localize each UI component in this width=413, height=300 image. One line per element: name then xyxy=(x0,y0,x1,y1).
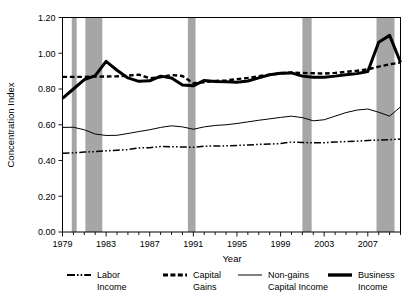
x-tick-label: 1983 xyxy=(96,239,116,249)
concentration-index-line-chart: 0.000.200.400.600.801.001.20 19791983198… xyxy=(0,0,413,300)
recession-band-1 xyxy=(72,18,77,233)
y-tick-label: 0.80 xyxy=(38,84,56,94)
legend-label-line2: Capital Income xyxy=(268,282,328,292)
legend-label-line2: Gains xyxy=(193,282,217,292)
legend-label-line1: Non-gains xyxy=(268,270,310,280)
x-tick-label: 2007 xyxy=(358,239,378,249)
y-tick-label: 1.20 xyxy=(38,13,56,23)
legend-label-line1: Capital xyxy=(193,270,221,280)
recession-band-3 xyxy=(188,18,196,233)
y-tick-label: 0.20 xyxy=(38,192,56,202)
recession-band-2 xyxy=(85,18,102,233)
x-tick-label: 1979 xyxy=(52,239,72,249)
legend-label-line2: Income xyxy=(97,282,127,292)
x-tick-label: 1991 xyxy=(183,239,203,249)
y-tick-label: 1.00 xyxy=(38,49,56,59)
y-tick-label: 0.40 xyxy=(38,156,56,166)
y-tick-label: 0.00 xyxy=(38,227,56,237)
x-tick-label: 2003 xyxy=(314,239,334,249)
legend-label-line2: Income xyxy=(358,282,388,292)
x-tick-label: 1987 xyxy=(140,239,160,249)
legend-label-line1: Business xyxy=(358,270,395,280)
y-axis-title: Concentration Index xyxy=(5,82,16,167)
recession-band-5 xyxy=(377,18,395,233)
legend-label-line1: Labor xyxy=(97,270,120,280)
figure-background xyxy=(0,0,413,300)
y-tick-label: 0.60 xyxy=(38,120,56,130)
recession-band-4 xyxy=(302,18,311,233)
x-axis-title: Year xyxy=(222,253,241,264)
x-tick-label: 1995 xyxy=(227,239,247,249)
x-tick-label: 1999 xyxy=(271,239,291,249)
